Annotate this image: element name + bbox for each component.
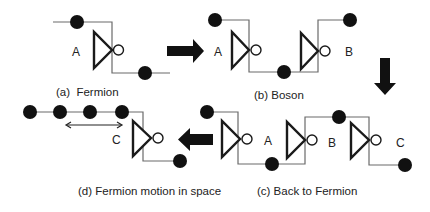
gate-label-b: B	[345, 45, 353, 59]
gate-label-c: C	[112, 133, 121, 147]
inverter-gate-icon	[94, 32, 112, 68]
fermion-boson-diagram: A (a) Fermion A B (b) Boson A B C (c)	[0, 0, 430, 212]
inverter-gate-icon	[222, 121, 240, 157]
particle-dot-icon	[332, 110, 346, 124]
particle-dot-icon	[398, 158, 412, 172]
particle-dot-icon	[23, 105, 37, 119]
gate-label-c: C	[396, 136, 405, 150]
left-arrow-icon	[178, 128, 213, 151]
particle-dot-icon	[173, 154, 187, 168]
particle-dot-icon	[138, 66, 152, 80]
panel-a-fermion: A (a) Fermion	[53, 15, 170, 98]
particle-dot-icon	[200, 105, 214, 119]
inverter-gate-icon	[287, 122, 305, 158]
gate-label-b: B	[328, 136, 336, 150]
particle-dot-icon	[70, 15, 84, 29]
particle-dot-icon	[53, 105, 67, 119]
gate-label-a: A	[214, 45, 222, 59]
right-arrow-icon	[167, 39, 204, 63]
caption-b: (b) Boson	[254, 89, 304, 101]
caption-a: (a) Fermion	[56, 86, 119, 98]
double-headed-arrow-icon	[66, 122, 122, 128]
inverter-bubble-icon	[320, 46, 330, 56]
down-arrow-icon	[374, 58, 396, 95]
caption-c: (c) Back to Fermion	[257, 185, 357, 197]
inverter-gate-icon	[351, 123, 369, 158]
particle-dot-icon	[83, 105, 97, 119]
panel-b-boson: A B (b) Boson	[208, 13, 357, 101]
particle-dot-icon	[115, 105, 129, 119]
gate-label-a: A	[264, 134, 272, 148]
inverter-gate-icon	[301, 33, 318, 69]
particle-dot-icon	[277, 65, 291, 79]
gate-label-a: A	[72, 45, 80, 59]
inverter-bubble-icon	[251, 45, 261, 55]
particle-dot-icon	[343, 13, 357, 27]
inverter-bubble-icon	[153, 133, 163, 143]
inverter-bubble-icon	[371, 135, 381, 145]
panel-c-back-to-fermion: A B C (c) Back to Fermion	[200, 105, 412, 197]
particle-dot-icon	[208, 13, 222, 27]
inverter-gate-icon	[133, 121, 151, 156]
wire	[53, 22, 170, 73]
inverter-gate-icon	[232, 32, 249, 68]
inverter-bubble-icon	[114, 45, 124, 55]
inverter-bubble-icon	[307, 135, 317, 145]
particle-dot-icon	[265, 157, 279, 171]
panel-d-fermion-motion: C (d) Fermion motion in space	[23, 105, 221, 197]
caption-d: (d) Fermion motion in space	[78, 185, 221, 197]
inverter-bubble-icon	[242, 134, 252, 144]
